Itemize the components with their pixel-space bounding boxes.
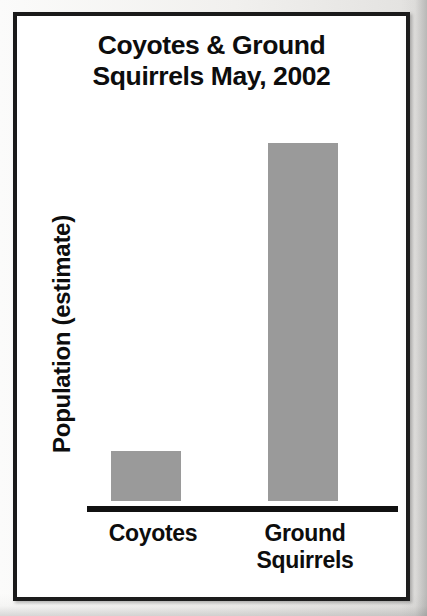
figure-frame: Coyotes & Ground Squirrels May, 2002 Pop…	[13, 12, 410, 601]
bar-slot-coyotes	[111, 451, 181, 501]
x-tick-label-ground-squirrels-line-1: Ground	[239, 520, 371, 547]
chart-title-line-2: Squirrels May, 2002	[23, 61, 400, 92]
x-tick-label-ground-squirrels: Ground Squirrels	[239, 520, 371, 574]
page-title: Coyotes & Ground Squirrels May, 2002	[23, 30, 400, 92]
x-tick-label-coyotes: Coyotes	[93, 520, 213, 547]
x-tick-label-ground-squirrels-line-2: Squirrels	[239, 547, 371, 574]
x-axis-line	[87, 506, 398, 512]
y-axis-label: Population (estimate)	[48, 169, 76, 499]
bar-coyotes	[111, 451, 181, 501]
bar-ground-squirrels	[268, 143, 338, 501]
figure-inner: Coyotes & Ground Squirrels May, 2002 Pop…	[17, 16, 406, 597]
x-tick-label-coyotes-line-1: Coyotes	[93, 520, 213, 547]
scanned-page: Coyotes & Ground Squirrels May, 2002 Pop…	[0, 0, 427, 616]
chart-title-line-1: Coyotes & Ground	[23, 30, 400, 61]
plot-area	[85, 126, 397, 501]
bar-slot-ground-squirrels	[268, 143, 338, 501]
